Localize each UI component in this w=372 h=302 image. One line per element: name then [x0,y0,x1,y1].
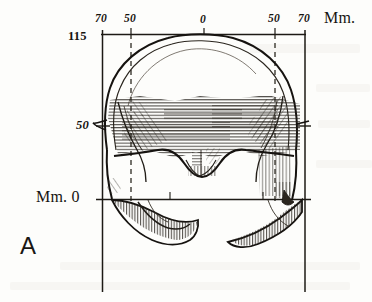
y-axis-label-50: 50 [76,119,89,132]
right-condyle-hatching [276,182,292,198]
left-basal-shading [107,178,121,194]
y-axis-origin-label: Mm. 0 [36,189,80,205]
x-axis-unit-label: Mm. [324,10,355,26]
right-mandible-hatching [224,196,310,250]
skull-drawing [93,34,310,250]
skull-figure [0,0,372,302]
x-axis-label-right-70: 70 [298,13,310,25]
x-axis-label-left-50: 50 [124,13,136,25]
skull-right-lateral-wall [292,150,296,200]
x-axis-label-left-70: 70 [95,13,107,25]
y-axis-label-115: 115 [68,30,87,43]
x-axis-label-right-50: 50 [268,13,280,25]
x-axis-label-center-0: 0 [200,14,206,26]
panel-letter-label: A [20,234,36,258]
